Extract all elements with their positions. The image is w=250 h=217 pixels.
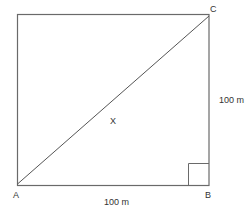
right-side-dimension: 100 m [219,96,244,105]
bottom-side-dimension: 100 m [104,198,129,207]
square-diagram: C A B X 100 m 100 m [0,0,250,217]
right-angle-marker [189,164,210,186]
vertex-b-label: B [205,191,211,200]
diagram-lines [0,0,250,217]
vertex-c-label: C [210,5,217,14]
point-x-label: X [110,117,116,126]
diagonal-ac [18,16,210,184]
vertex-a-label: A [13,191,19,200]
